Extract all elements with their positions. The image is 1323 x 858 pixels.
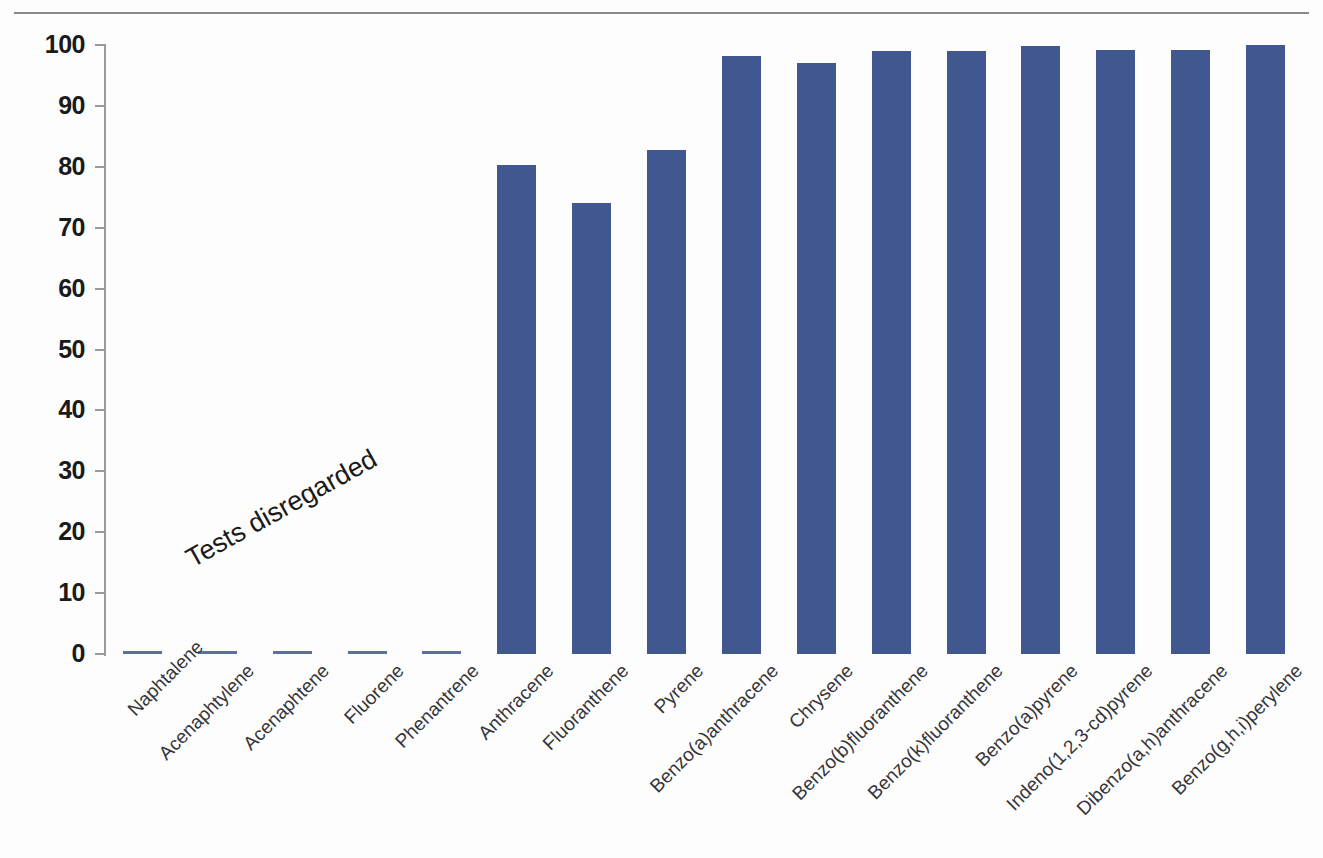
y-axis-tick [95, 470, 105, 472]
plot-area [105, 45, 1303, 654]
bar [123, 651, 162, 654]
y-axis-tick [95, 44, 105, 46]
y-axis-tick-label: 40 [25, 395, 85, 424]
bar-slot [348, 45, 387, 654]
bar-slot [947, 45, 986, 654]
bar-slot [797, 45, 836, 654]
bar-chart: 0102030405060708090100 NaphtaleneAcenaph… [0, 0, 1323, 858]
y-axis-tick-label: 0 [25, 639, 85, 668]
y-axis-tick-label: 30 [25, 456, 85, 485]
bar [722, 56, 761, 654]
y-axis-tick-label: 80 [25, 152, 85, 181]
bar [572, 203, 611, 654]
bar-slot [1096, 45, 1135, 654]
bar-slot [872, 45, 911, 654]
y-axis-tick-label: 100 [25, 30, 85, 59]
x-axis-label: Benzo(g,h,i)perylene [453, 660, 1308, 858]
top-divider-rule [14, 12, 1309, 14]
bar-slot [572, 45, 611, 654]
y-axis-tick-label: 10 [25, 578, 85, 607]
bar-slot [1246, 45, 1285, 654]
y-axis-tick-label: 60 [25, 274, 85, 303]
x-axis-labels: NaphtaleneAcenaphtyleneAcenaphteneFluore… [105, 660, 1303, 858]
bar [872, 51, 911, 654]
bar [1246, 45, 1285, 654]
bar [1021, 46, 1060, 654]
bar [348, 651, 387, 654]
y-axis-tick [95, 288, 105, 290]
y-axis-tick [95, 227, 105, 229]
bar-slot [422, 45, 461, 654]
bar-slot [497, 45, 536, 654]
bar [273, 651, 312, 654]
y-axis-tick [95, 531, 105, 533]
bar [947, 51, 986, 654]
y-axis-tick-label: 20 [25, 517, 85, 546]
y-axis-tick [95, 653, 105, 655]
bar-slot [1021, 45, 1060, 654]
bar [797, 63, 836, 654]
bar [1171, 50, 1210, 654]
bar-slot [647, 45, 686, 654]
y-axis-tick [95, 409, 105, 411]
x-axis-label: Naphtalene [124, 660, 184, 720]
bar [497, 165, 536, 654]
bar [647, 150, 686, 654]
bar-slot [123, 45, 162, 654]
y-axis-tick [95, 349, 105, 351]
bar-slot [273, 45, 312, 654]
y-axis-tick-label: 70 [25, 213, 85, 242]
y-axis-tick [95, 166, 105, 168]
bar [1096, 50, 1135, 654]
x-axis-label: Pyrene [277, 660, 708, 858]
bar-slot [1171, 45, 1210, 654]
y-axis-tick-label: 90 [25, 91, 85, 120]
y-axis-tick [95, 592, 105, 594]
bar-series [105, 45, 1303, 654]
y-axis-tick [95, 105, 105, 107]
bar [422, 651, 461, 654]
bar-slot [722, 45, 761, 654]
y-axis-tick-label: 50 [25, 335, 85, 364]
